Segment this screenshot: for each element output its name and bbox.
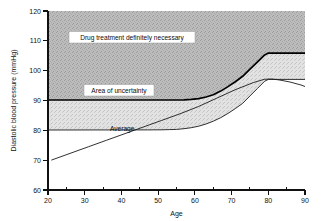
- chart-figure: 120 110 100 90 80 70 60: [0, 0, 321, 221]
- x-axis-ticks: [48, 190, 305, 195]
- x-tick-label: 20: [44, 197, 52, 204]
- drug-treatment-annotation: Drug treatment definitely necessary: [69, 32, 195, 44]
- x-axis-tick-labels: 20 30 40 50 60 70 80 90: [44, 197, 309, 204]
- x-tick-label: 60: [191, 197, 199, 204]
- y-tick-label: 60: [33, 187, 41, 194]
- y-tick-label: 110: [30, 37, 41, 44]
- y-axis-tick-labels: 120 110 100 90 80 70 60: [29, 8, 41, 194]
- x-tick-label: 90: [301, 197, 309, 204]
- x-tick-label: 40: [118, 197, 126, 204]
- y-tick-label: 70: [33, 157, 41, 164]
- y-tick-label: 90: [33, 97, 41, 104]
- x-tick-label: 80: [264, 197, 272, 204]
- x-axis-title: Age: [170, 210, 183, 218]
- uncertainty-annotation: Area of uncertainty: [84, 85, 154, 97]
- x-tick-label: 70: [228, 197, 236, 204]
- y-tick-label: 80: [33, 127, 41, 134]
- x-tick-label: 30: [81, 197, 89, 204]
- y-axis-ticks: [43, 11, 48, 190]
- drug-treatment-label: Drug treatment definitely necessary: [80, 34, 184, 42]
- x-tick-label: 50: [154, 197, 162, 204]
- y-tick-label: 120: [29, 8, 41, 15]
- average-label: Average: [110, 125, 135, 133]
- blood-pressure-chart: 120 110 100 90 80 70 60: [0, 0, 321, 221]
- y-tick-label: 100: [29, 67, 41, 74]
- uncertainty-label: Area of uncertainty: [91, 87, 147, 95]
- y-axis-title: Diastolic blood pressure (mmHg): [10, 50, 18, 152]
